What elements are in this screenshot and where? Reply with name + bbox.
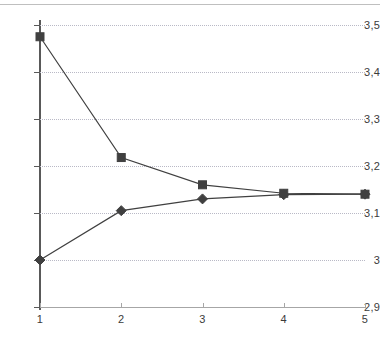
series-line-upper	[40, 37, 365, 194]
data-point-marker-diamond	[116, 206, 126, 216]
data-point-marker-square	[117, 154, 125, 162]
data-point-marker-square	[199, 181, 207, 189]
data-point-marker-diamond	[198, 194, 208, 204]
data-point-marker-square	[36, 33, 44, 41]
data-point-marker-diamond	[35, 255, 45, 265]
series-plot	[0, 0, 380, 344]
line-chart: 2,933,13,23,33,43,5 12345	[0, 0, 380, 344]
